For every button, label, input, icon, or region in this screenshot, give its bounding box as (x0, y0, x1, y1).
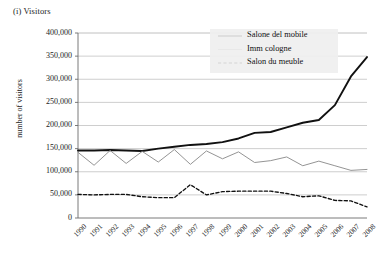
legend-item-label: Salon du meuble (247, 57, 303, 66)
y-tick-label: 0 (16, 213, 72, 222)
y-tick-label: 250,000 (16, 97, 72, 106)
legend-item-label: Imm cologne (247, 44, 291, 53)
legend-item-label: Salone del mobile (247, 30, 307, 39)
y-tick-label: 150,000 (16, 143, 72, 152)
y-tick-label: 400,000 (16, 28, 72, 37)
series-line-1 (78, 150, 367, 171)
y-tick-label: 350,000 (16, 51, 72, 60)
y-tick-label: 300,000 (16, 74, 72, 83)
y-tick-label: 100,000 (16, 166, 72, 175)
y-tick-label: 200,000 (16, 120, 72, 129)
series-line-2 (78, 185, 367, 207)
visitors-line-chart-figure: (i) Visitors number of visitors 400,0003… (0, 0, 386, 261)
y-tick-label: 50,000 (16, 189, 72, 198)
